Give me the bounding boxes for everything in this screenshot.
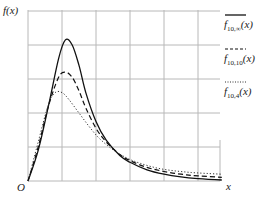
- plot-lines: [28, 39, 222, 181]
- series-line-solid: [28, 39, 222, 181]
- legend-label: f10,10(x): [224, 52, 255, 67]
- origin-label: O: [17, 181, 25, 193]
- grid: [28, 10, 220, 181]
- legend-label: f10,4(x): [224, 85, 252, 100]
- chart: f(x) O x f10,∞(x)f10,10(x)f10,4(x): [0, 0, 269, 210]
- series-line-dashed: [28, 72, 222, 181]
- x-axis-label: x: [225, 180, 231, 192]
- legend: f10,∞(x)f10,10(x)f10,4(x): [224, 15, 255, 100]
- y-axis-label: f(x): [3, 4, 19, 17]
- series-line-dotted: [28, 91, 222, 181]
- legend-label: f10,∞(x): [224, 18, 253, 33]
